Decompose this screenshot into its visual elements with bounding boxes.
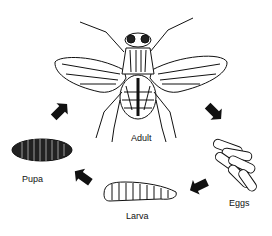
label-larva: Larva: [126, 211, 149, 221]
adult-fly-illustration: [55, 18, 227, 142]
arrow-larva-to-pupa: [70, 165, 95, 189]
larva-illustration: [104, 182, 176, 201]
pupa-illustration: [12, 139, 72, 161]
eggs-illustration: [212, 138, 258, 193]
label-pupa: Pupa: [22, 174, 43, 184]
label-adult: Adult: [131, 133, 152, 143]
arrow-pupa-to-adult: [48, 98, 73, 123]
arrow-eggs-to-larva: [187, 175, 211, 198]
label-eggs: Eggs: [229, 198, 250, 208]
arrow-adult-to-eggs: [202, 100, 227, 125]
